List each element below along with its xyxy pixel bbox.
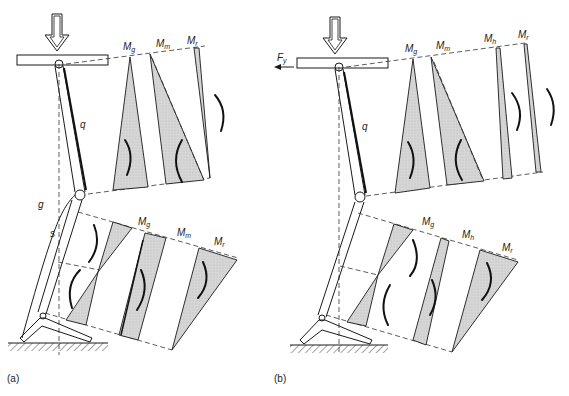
knee-pin (355, 192, 365, 202)
moment-diagram-mg-lower-top (98, 222, 132, 272)
moment-diagram-mr-lower (452, 250, 518, 352)
lower-member (318, 202, 364, 317)
moment-diagram-mg-upper (113, 57, 148, 190)
moment-diagram-mh-upper (496, 48, 512, 179)
moment-diagram-mm-upper (431, 57, 484, 185)
member-q (335, 69, 366, 195)
label-mg-top-a: Mg (123, 41, 135, 54)
label-mr-top-b: Mr (518, 29, 529, 41)
moment-diagram-mh-lower (413, 238, 449, 345)
moment-diagram-mr-upper (524, 44, 541, 172)
label-mg-top-b: Mg (405, 43, 417, 56)
label-fy: Fy (277, 52, 287, 65)
load-arrow-icon (45, 14, 69, 51)
panel-a: Mg Mm Mr q g s Mg Mm Mr (a) (7, 14, 238, 384)
caption-b: (b) (274, 373, 286, 384)
label-member-q-b: q (362, 121, 368, 132)
moment-diagram-mm-lower (119, 233, 166, 340)
label-mh-top-b: Mh (484, 33, 496, 45)
panel-b: Fy q Mg Mm (274, 17, 554, 384)
moment-diagram-mg-lower-bottom (347, 275, 378, 326)
label-member-g: g (38, 199, 44, 210)
label-mm-top-a: Mm (156, 38, 170, 50)
label-mg-bottom-b: Mg (422, 216, 434, 229)
label-mh-bottom-b: Mh (462, 229, 474, 241)
knee-pin (75, 190, 85, 200)
label-member-s: s (50, 228, 55, 239)
label-mg-bottom-a: Mg (138, 216, 150, 229)
label-mr-bottom-b: Mr (502, 242, 513, 254)
force-fy-arrow-icon (274, 64, 294, 70)
label-mr-top-a: Mr (187, 35, 198, 47)
bending-moment-diagram: Mg Mm Mr q g s Mg Mm Mr (a) (0, 0, 569, 396)
caption-a: (a) (7, 373, 19, 384)
label-mm-bottom-a: Mm (177, 227, 191, 239)
moment-diagram-mg-lower-top (378, 224, 413, 275)
base-support (8, 313, 108, 351)
label-mr-bottom-a: Mr (214, 236, 225, 248)
moment-diagram-mr-upper (194, 48, 210, 178)
label-mm-top-b: Mm (436, 40, 450, 52)
load-arrow-icon (323, 17, 347, 54)
label-member-q-a: q (80, 119, 86, 130)
